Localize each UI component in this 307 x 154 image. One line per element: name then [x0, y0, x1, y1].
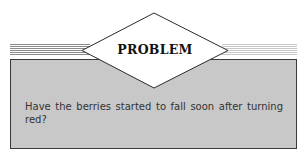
problem-heading: PROBLEM [82, 42, 228, 57]
left-stripes-decoration [10, 44, 90, 56]
problem-question: Have the berries started to fall soon af… [25, 100, 283, 126]
right-stripes-decoration [222, 44, 297, 56]
